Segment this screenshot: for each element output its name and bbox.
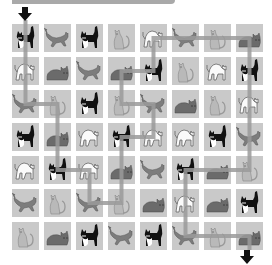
gray-cat-walking-icon	[44, 24, 71, 52]
light-cat-sitting-icon	[44, 90, 71, 118]
maze-cell[interactable]	[236, 90, 263, 118]
maze-cell[interactable]	[236, 222, 263, 250]
maze-cell[interactable]	[140, 123, 167, 151]
maze-cell[interactable]	[172, 90, 199, 118]
maze-cell[interactable]	[108, 189, 135, 217]
dark-cat-lying-icon	[44, 123, 71, 151]
tuxedo-cat-standing-icon	[204, 123, 231, 151]
maze-cell[interactable]	[172, 24, 199, 52]
light-cat-sitting-icon	[108, 24, 135, 52]
maze-cell[interactable]	[12, 222, 39, 250]
white-cat-arched-icon	[204, 57, 231, 85]
maze-cell[interactable]	[140, 90, 167, 118]
maze-cell[interactable]	[44, 57, 71, 85]
light-cat-sitting-icon	[204, 222, 231, 250]
maze-cell[interactable]	[172, 57, 199, 85]
maze-cell[interactable]	[108, 156, 135, 184]
maze-cell[interactable]	[140, 24, 167, 52]
maze-cell[interactable]	[44, 156, 71, 184]
gray-cat-walking-icon	[236, 123, 263, 151]
dark-cat-lying-icon	[236, 24, 263, 52]
gray-cat-walking-icon	[76, 189, 103, 217]
dark-cat-lying-icon	[236, 222, 263, 250]
maze-cell[interactable]	[204, 123, 231, 151]
maze-cell[interactable]	[204, 57, 231, 85]
dark-cat-lying-icon	[204, 189, 231, 217]
white-cat-arched-icon	[140, 123, 167, 151]
light-cat-sitting-icon	[204, 90, 231, 118]
maze-cell[interactable]	[204, 222, 231, 250]
tuxedo-cat-standing-icon	[76, 222, 103, 250]
maze-cell[interactable]	[204, 24, 231, 52]
white-cat-arched-icon	[172, 189, 199, 217]
maze-cell[interactable]	[44, 90, 71, 118]
maze-cell[interactable]	[108, 123, 135, 151]
maze-cell[interactable]	[140, 156, 167, 184]
maze-cell[interactable]	[172, 222, 199, 250]
tuxedo-cat-standing-icon	[140, 222, 167, 250]
tuxedo-cat-standing-icon	[76, 24, 103, 52]
tuxedo-cat-standing-icon	[12, 123, 39, 151]
maze-cell[interactable]	[44, 189, 71, 217]
light-cat-sitting-icon	[44, 189, 71, 217]
maze-cell[interactable]	[44, 222, 71, 250]
maze-cell[interactable]	[12, 57, 39, 85]
maze-cell[interactable]	[76, 123, 103, 151]
maze-cell[interactable]	[12, 24, 39, 52]
maze-cell[interactable]	[76, 222, 103, 250]
tuxedo-cat-standing-icon	[172, 156, 199, 184]
dark-cat-lying-icon	[140, 189, 167, 217]
light-cat-sitting-icon	[204, 24, 231, 52]
maze-cell[interactable]	[12, 189, 39, 217]
white-cat-arched-icon	[140, 24, 167, 52]
maze-cell[interactable]	[236, 189, 263, 217]
light-cat-sitting-icon	[108, 189, 135, 217]
maze-cell[interactable]	[76, 90, 103, 118]
light-cat-sitting-icon	[12, 222, 39, 250]
maze-cell[interactable]	[172, 189, 199, 217]
white-cat-arched-icon	[12, 156, 39, 184]
end-arrow-down-icon	[240, 250, 254, 264]
dark-cat-lying-icon	[44, 57, 71, 85]
start-arrow-down-icon	[18, 7, 32, 21]
white-cat-arched-icon	[12, 57, 39, 85]
maze-cell[interactable]	[140, 57, 167, 85]
white-cat-arched-icon	[236, 90, 263, 118]
dark-cat-lying-icon	[108, 156, 135, 184]
maze-cell[interactable]	[140, 189, 167, 217]
maze-cell[interactable]	[12, 90, 39, 118]
maze-cell[interactable]	[236, 57, 263, 85]
maze-cell[interactable]	[76, 57, 103, 85]
gray-cat-walking-icon	[12, 189, 39, 217]
maze-cell[interactable]	[76, 156, 103, 184]
light-cat-sitting-icon	[108, 90, 135, 118]
maze-cell[interactable]	[108, 57, 135, 85]
tuxedo-cat-standing-icon	[12, 24, 39, 52]
maze-cell[interactable]	[236, 123, 263, 151]
maze-cell[interactable]	[108, 222, 135, 250]
maze-cell[interactable]	[44, 24, 71, 52]
tuxedo-cat-standing-icon	[140, 57, 167, 85]
maze-cell[interactable]	[108, 24, 135, 52]
maze-cell[interactable]	[236, 24, 263, 52]
maze-cell[interactable]	[172, 156, 199, 184]
tuxedo-cat-standing-icon	[76, 90, 103, 118]
gray-cat-walking-icon	[76, 57, 103, 85]
white-cat-arched-icon	[76, 156, 103, 184]
maze-cell[interactable]	[108, 90, 135, 118]
maze-cell[interactable]	[204, 189, 231, 217]
maze-cell[interactable]	[44, 123, 71, 151]
maze-cell[interactable]	[12, 123, 39, 151]
maze-cell[interactable]	[140, 222, 167, 250]
tuxedo-cat-standing-icon	[236, 189, 263, 217]
gray-cat-walking-icon	[172, 222, 199, 250]
maze-cell[interactable]	[76, 189, 103, 217]
cat-maze-grid	[0, 0, 272, 265]
maze-cell[interactable]	[76, 24, 103, 52]
maze-cell[interactable]	[204, 90, 231, 118]
maze-cell[interactable]	[12, 156, 39, 184]
maze-cell[interactable]	[172, 123, 199, 151]
maze-cell[interactable]	[236, 156, 263, 184]
dark-cat-lying-icon	[108, 57, 135, 85]
maze-cell[interactable]	[204, 156, 231, 184]
